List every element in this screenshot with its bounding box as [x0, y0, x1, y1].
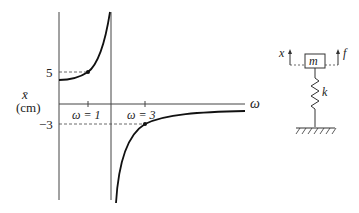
f-label: f [343, 46, 348, 60]
curve-above-resonance [116, 111, 245, 203]
y-tick-minus3: −3 [39, 117, 53, 132]
y-tick-5: 5 [46, 65, 53, 80]
spring-icon [311, 68, 319, 127]
spring-label: k [322, 85, 328, 99]
ground-hatch-icon [296, 128, 336, 134]
x-axis-label: ω [250, 96, 260, 111]
point-omega-1 [86, 70, 90, 74]
point-omega-3 [143, 122, 147, 126]
x-tick-label-1: ω = 1 [72, 108, 101, 122]
diagram-canvas: 5 −3 x̄ (cm) ω = 1 ω = 3 ω m x f k [0, 0, 359, 213]
curve-below-resonance [59, 12, 110, 80]
y-label-unit: (cm) [16, 100, 41, 115]
x-arrowhead-icon [288, 49, 292, 54]
spring-mass-system: m x f k [278, 46, 348, 134]
x-tick-label-3: ω = 3 [127, 108, 156, 122]
f-arrowhead-icon [336, 49, 340, 54]
x-label: x [278, 46, 285, 60]
mass-label: m [309, 54, 318, 68]
